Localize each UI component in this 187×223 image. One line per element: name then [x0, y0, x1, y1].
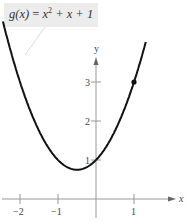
x-tick-label: 1 — [131, 206, 136, 217]
x-tick-label: −2 — [13, 206, 24, 217]
x-axis-label: x — [178, 193, 184, 204]
parabola-curve — [3, 22, 146, 170]
x-tick-label: −1 — [51, 206, 62, 217]
y-tick-label: 3 — [85, 77, 90, 88]
axes: xy−2−11123 — [2, 43, 184, 218]
point-marker — [131, 79, 136, 84]
y-tick-label: 1 — [85, 155, 90, 166]
y-axis-label: y — [94, 43, 99, 54]
plot-area: xy−2−11123 — [0, 0, 187, 223]
y-tick-label: 2 — [85, 116, 90, 127]
leader-line — [25, 27, 45, 55]
